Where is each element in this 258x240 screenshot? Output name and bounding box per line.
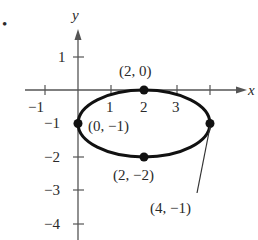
- x-tick-label: 1: [106, 99, 114, 115]
- point-2-0: [140, 86, 149, 95]
- point-2-neg2: [140, 153, 149, 162]
- bullet-marker: •: [2, 16, 7, 32]
- y-tick-label: −1: [44, 115, 60, 131]
- x-tick-label: 3: [172, 99, 180, 115]
- point-0-neg1: [74, 119, 83, 128]
- y-axis-label: y: [70, 7, 79, 23]
- point-label: (4, −1): [150, 200, 191, 217]
- x-tick-label: 2: [140, 99, 148, 115]
- y-tick-label: −4: [44, 216, 60, 232]
- point-label: (2, −2): [113, 167, 154, 184]
- ellipse-graph: • y x −1 1 2 3 1 −1 −2 −3 −4 (2, 0) (0, …: [0, 0, 258, 240]
- y-tick-label: −3: [44, 182, 60, 198]
- point-label: (2, 0): [119, 63, 152, 80]
- point-4-neg1: [206, 119, 215, 128]
- y-tick-label: −2: [44, 149, 60, 165]
- x-tick-label: −1: [28, 99, 44, 115]
- x-axis-arrow-icon: [236, 87, 247, 94]
- y-axis-arrow-icon: [75, 29, 82, 40]
- x-axis-label: x: [247, 82, 255, 98]
- y-tick-label: 1: [58, 49, 66, 65]
- point-label: (0, −1): [88, 118, 129, 135]
